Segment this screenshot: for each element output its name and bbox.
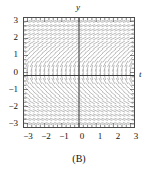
slope-segment (112, 78, 115, 84)
y-axis-letter-label: y (76, 3, 80, 12)
slope-segment (39, 78, 42, 84)
slope-segment (60, 61, 63, 67)
plot-area (23, 17, 135, 128)
slope-segment (120, 78, 123, 84)
slope-segment (47, 61, 50, 67)
slope-segment (43, 61, 46, 67)
slope-segment (86, 78, 89, 84)
slope-segment (56, 78, 59, 84)
slope-segment (103, 61, 106, 67)
x-tick-label: −3 (21, 132, 35, 141)
x-tick-label: −1 (57, 132, 71, 141)
x-tick-label: 1 (93, 132, 107, 141)
slope-segment (116, 61, 119, 67)
slope-segment (95, 78, 98, 84)
y-tick-label: −1 (4, 85, 18, 94)
slope-segment (86, 61, 89, 67)
x-tick-label: 3 (129, 132, 143, 141)
slope-segment (73, 61, 76, 67)
slope-segment (82, 61, 85, 67)
x-tick-label: −2 (39, 132, 53, 141)
y-tick-label: 0 (4, 68, 18, 77)
t-axis-letter-label: t (139, 70, 142, 79)
slope-segment (90, 61, 93, 67)
slope-segment (99, 78, 102, 84)
slope-segment (82, 78, 85, 84)
slope-field-plot (24, 18, 134, 127)
slope-segment (65, 61, 68, 67)
y-tick-label: −3 (4, 119, 18, 128)
x-tick-label: 0 (75, 132, 89, 141)
slope-field-figure: y t 3210−1−2−3 −3−2−10123 (B) (0, 0, 158, 175)
slope-segment (34, 61, 37, 67)
y-tick-label: 1 (4, 50, 18, 59)
figure-caption: (B) (0, 153, 158, 164)
slope-segment (39, 61, 42, 67)
slope-segment (60, 78, 63, 84)
slope-segment (30, 78, 33, 84)
slope-segment (69, 78, 72, 84)
slope-segment (108, 78, 111, 84)
slope-segment (73, 78, 76, 84)
y-tick-label: 2 (4, 33, 18, 42)
slope-segment (90, 78, 93, 84)
y-tick-label: −2 (4, 102, 18, 111)
slope-segment (125, 78, 128, 84)
slope-segment (47, 78, 50, 84)
slope-segment (125, 61, 128, 67)
y-tick-label: 3 (4, 16, 18, 25)
slope-segment (95, 61, 98, 67)
slope-segment (69, 61, 72, 67)
slope-segment (103, 78, 106, 84)
slope-segment (52, 78, 55, 84)
slope-segment (52, 61, 55, 67)
slope-segment (65, 78, 68, 84)
slope-segment (34, 78, 37, 84)
slope-segment (43, 78, 46, 84)
slope-segment (120, 61, 123, 67)
slope-segment (99, 61, 102, 67)
slope-segment (108, 61, 111, 67)
slope-segment (30, 61, 33, 67)
slope-segment (116, 78, 119, 84)
x-tick-label: 2 (111, 132, 125, 141)
slope-segment (112, 61, 115, 67)
slope-segment (56, 61, 59, 67)
